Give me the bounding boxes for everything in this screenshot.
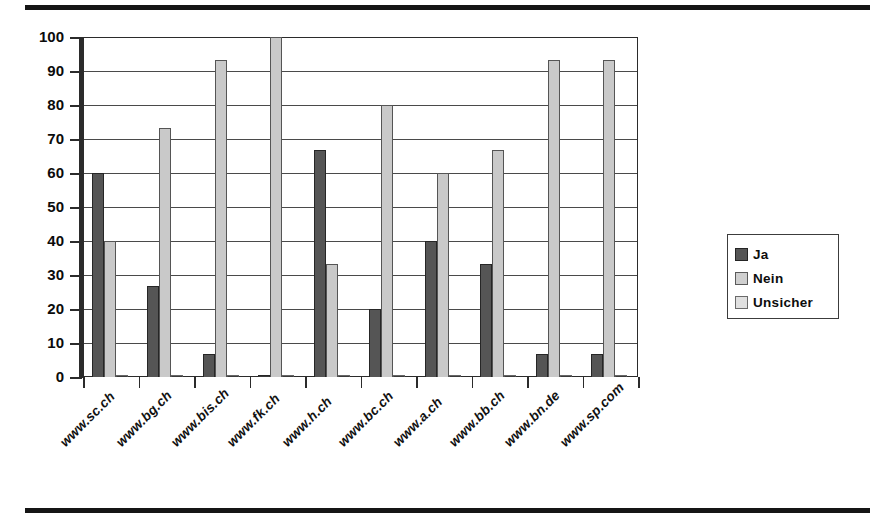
legend-swatch-icon <box>735 296 748 309</box>
y-axis-tick <box>70 207 82 209</box>
bar-ja-www.a.ch <box>425 241 437 377</box>
bar-nein-www.bis.ch <box>215 60 227 377</box>
y-axis-tick-label: 100 <box>16 29 64 44</box>
y-axis-tick <box>70 105 82 107</box>
grouped-bar-chart: 1009080706050403020100 www.sc.chwww.bg.c… <box>0 0 889 532</box>
bar-group <box>480 37 516 377</box>
x-axis-label-www.sp.com: www.sp.com <box>557 380 627 450</box>
x-axis-tick <box>250 377 252 388</box>
x-axis-ticks <box>83 377 639 389</box>
bar-group <box>591 37 627 377</box>
bar-ja-www.bn.de <box>536 354 548 377</box>
y-axis-tick-label: 20 <box>16 301 64 316</box>
y-axis-tick <box>70 71 82 73</box>
legend-item-label: Ja <box>753 247 769 262</box>
bar-nein-www.sp.com <box>603 60 615 377</box>
x-axis-tick <box>194 377 196 388</box>
y-axis-tick-label: 10 <box>16 335 64 350</box>
y-axis-tick <box>70 343 82 345</box>
y-axis-tick <box>70 309 82 311</box>
chart-legend: JaNeinUnsicher <box>727 234 839 319</box>
y-axis-tick-label: 50 <box>16 199 64 214</box>
y-axis-tick <box>70 377 82 379</box>
x-axis-tick <box>583 377 585 388</box>
x-axis-label-www.bg.ch: www.bg.ch <box>113 388 175 450</box>
x-axis-label-www.h.ch: www.h.ch <box>279 394 335 450</box>
bar-group <box>92 37 128 377</box>
x-axis-tick <box>305 377 307 388</box>
y-axis-tick <box>70 139 82 141</box>
x-axis-label-www.sc.ch: www.sc.ch <box>57 389 118 450</box>
bar-nein-www.bb.ch <box>492 150 504 377</box>
x-axis-label-www.bc.ch: www.bc.ch <box>335 388 396 449</box>
bar-ja-www.bc.ch <box>369 309 381 377</box>
bar-group <box>369 37 405 377</box>
legend-item-nein[interactable]: Nein <box>735 266 838 290</box>
x-axis-label-www.bis.ch: www.bis.ch <box>168 385 232 449</box>
legend-item-label: Nein <box>753 271 783 286</box>
legend-item-ja[interactable]: Ja <box>735 242 838 266</box>
bar-ja-www.sp.com <box>591 354 603 377</box>
x-axis-tick <box>361 377 363 388</box>
bar-group <box>147 37 183 377</box>
bar-ja-www.bb.ch <box>480 264 492 377</box>
bar-group <box>425 37 461 377</box>
bar-nein-www.bg.ch <box>159 128 171 377</box>
y-axis-tick <box>70 241 82 243</box>
bar-group <box>203 37 239 377</box>
bar-nein-www.bn.de <box>548 60 560 377</box>
y-axis-tick <box>70 37 82 39</box>
bar-nein-www.fk.ch <box>270 37 282 377</box>
bar-ja-www.bg.ch <box>147 286 159 377</box>
legend-swatch-icon <box>735 248 748 261</box>
bars-layer <box>83 37 638 377</box>
x-axis-label-www.bb.ch: www.bb.ch <box>446 388 508 450</box>
legend-item-unsicher[interactable]: Unsicher <box>735 290 838 314</box>
bar-nein-www.h.ch <box>326 264 338 377</box>
bar-ja-www.sc.ch <box>92 173 104 377</box>
y-axis-tick-label: 0 <box>16 369 64 384</box>
legend-swatch-icon <box>735 272 748 285</box>
x-axis-tick <box>83 377 85 388</box>
y-axis-tick-label: 80 <box>16 97 64 112</box>
y-axis-tick <box>70 173 82 175</box>
bar-ja-www.bis.ch <box>203 354 215 377</box>
bar-nein-www.a.ch <box>437 173 449 377</box>
bar-group <box>258 37 294 377</box>
x-axis-tick <box>527 377 529 388</box>
x-axis-label-www.fk.ch: www.fk.ch <box>224 391 283 450</box>
bar-nein-www.bc.ch <box>381 105 393 377</box>
y-axis-tick-label: 30 <box>16 267 64 282</box>
y-axis-tick-label: 70 <box>16 131 64 146</box>
legend-item-label: Unsicher <box>753 295 813 310</box>
x-axis-label-www.a.ch: www.a.ch <box>390 394 445 449</box>
y-axis-tick-label: 90 <box>16 63 64 78</box>
y-axis-tick-label: 40 <box>16 233 64 248</box>
y-axis-tick-label: 60 <box>16 165 64 180</box>
x-axis-tick <box>416 377 418 388</box>
x-axis-label-www.bn.de: www.bn.de <box>501 388 563 450</box>
y-axis-tick <box>70 275 82 277</box>
x-axis-tick <box>139 377 141 388</box>
bar-nein-www.sc.ch <box>104 241 116 377</box>
x-axis-tick <box>472 377 474 388</box>
x-axis-tick <box>638 377 640 388</box>
bar-group <box>314 37 350 377</box>
bar-ja-www.h.ch <box>314 150 326 377</box>
bar-group <box>536 37 572 377</box>
